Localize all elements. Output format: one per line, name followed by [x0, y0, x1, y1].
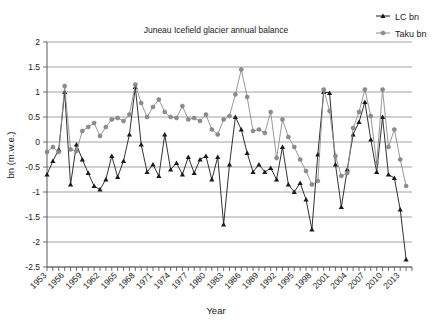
data-point: [245, 150, 250, 155]
data-point: [68, 147, 72, 151]
data-point: [251, 129, 255, 133]
data-point: [386, 145, 390, 149]
legend-label: Taku bn: [395, 29, 427, 39]
data-point: [104, 125, 108, 129]
y-tick-marks: [43, 42, 47, 267]
x-tick-label: 1980: [187, 270, 208, 291]
data-point: [310, 182, 314, 186]
data-point: [369, 114, 373, 118]
data-point: [86, 170, 91, 175]
x-tick-label: 2013: [381, 270, 402, 291]
data-point: [91, 183, 96, 188]
data-point: [298, 157, 302, 161]
data-point: [239, 67, 243, 71]
data-point: [45, 150, 49, 154]
y-tick-label: -0.5: [25, 162, 40, 172]
data-point: [44, 172, 49, 177]
data-point: [256, 162, 261, 167]
data-point: [339, 174, 343, 178]
data-point: [186, 154, 191, 159]
data-point: [356, 119, 361, 124]
data-point: [275, 156, 279, 160]
x-tick-label: 1974: [152, 270, 173, 291]
x-tick-marks: [47, 267, 412, 271]
data-point: [97, 187, 102, 192]
data-point: [386, 172, 391, 177]
data-point: [204, 112, 208, 116]
x-tick-label: 1977: [169, 270, 190, 291]
data-point: [345, 171, 349, 175]
data-point: [233, 92, 237, 96]
data-point: [304, 169, 308, 173]
data-point: [263, 131, 267, 135]
data-point: [298, 180, 303, 185]
data-point: [245, 95, 249, 99]
data-point: [216, 132, 220, 136]
data-point: [351, 132, 356, 137]
y-tick-label: -2.5: [25, 262, 40, 272]
data-point: [151, 105, 155, 109]
data-point: [86, 125, 90, 129]
chart-title: Juneau Icefield glacier annual balance: [144, 25, 289, 35]
data-point: [174, 116, 178, 120]
x-tick-label: 1989: [240, 270, 261, 291]
data-point: [333, 154, 337, 158]
data-point: [257, 127, 261, 131]
data-point: [68, 182, 73, 187]
y-tick-label: -1: [32, 187, 40, 197]
data-point: [163, 110, 167, 114]
data-point: [115, 174, 120, 179]
data-point: [363, 87, 367, 91]
data-point: [398, 207, 403, 212]
data-point: [50, 158, 55, 163]
data-point: [309, 227, 314, 232]
legend-marker: [381, 31, 385, 35]
data-point: [209, 177, 214, 182]
data-point: [292, 145, 296, 149]
data-series: [44, 67, 408, 261]
x-tick-label: 1965: [99, 270, 120, 291]
data-point: [227, 162, 232, 167]
y-tick-label: -2: [32, 237, 40, 247]
data-point: [368, 137, 373, 142]
x-tick-label: 1956: [46, 270, 67, 291]
axis-lines: [47, 42, 412, 267]
data-point: [392, 175, 397, 180]
y-tick-label: 1.5: [28, 62, 40, 72]
y-tick-label: -1.5: [25, 212, 40, 222]
x-tick-label: 1986: [222, 270, 243, 291]
data-point: [162, 132, 167, 137]
data-point: [133, 82, 137, 86]
legend-label: LC bn: [395, 12, 419, 22]
data-point: [121, 119, 125, 123]
data-point: [404, 257, 409, 262]
data-point: [286, 135, 290, 139]
data-point: [392, 127, 396, 131]
data-point: [150, 162, 155, 167]
x-axis-title: Year: [206, 305, 225, 316]
data-point: [197, 157, 202, 162]
y-tick-label: 1: [35, 87, 40, 97]
y-axis-title: bn (m.w.e.): [5, 132, 16, 179]
data-point: [157, 97, 161, 101]
data-point: [192, 116, 196, 120]
x-tick-label: 2004: [328, 270, 349, 291]
data-point: [63, 84, 67, 88]
data-point: [139, 101, 143, 105]
data-point: [169, 115, 173, 119]
data-point: [280, 144, 285, 149]
x-tick-label: 1968: [116, 270, 137, 291]
data-point: [303, 197, 308, 202]
x-tick-label: 1998: [293, 270, 314, 291]
data-point: [374, 169, 379, 174]
y-tick-labels: 21.510.50-0.5-1-1.5-2-2.5: [25, 37, 40, 272]
data-point: [269, 110, 273, 114]
y-tick-label: 0: [35, 137, 40, 147]
data-point: [274, 177, 279, 182]
data-point: [80, 129, 84, 133]
data-point: [322, 87, 326, 91]
data-point: [192, 170, 197, 175]
chart-legend: LC bnTaku bn: [376, 12, 427, 39]
series-lc-bn: [44, 84, 408, 261]
data-point: [362, 99, 367, 104]
